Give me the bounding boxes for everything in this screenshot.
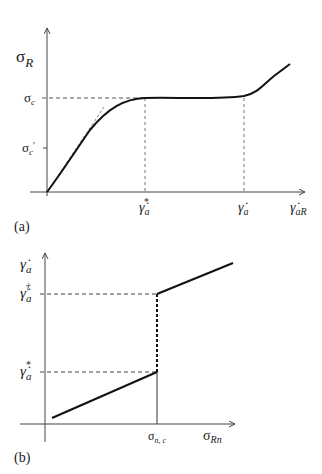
stress-curve <box>47 64 290 192</box>
lower-branch <box>52 372 157 418</box>
sigma-c-prime-label: σc′ <box>22 140 35 157</box>
panel-a-label: (a) <box>14 219 30 235</box>
panel-b: γ̇a γ̇a† γ̇a* σn, c σRn (b) <box>14 253 235 466</box>
gamma-a-label: γ̇a <box>238 200 249 217</box>
gamma-star-label: γ̇a* <box>139 196 150 217</box>
sigma-c-label: σc <box>24 90 35 107</box>
panel-b-y-axis-label: γ̇a <box>20 256 32 275</box>
panel-a-x-axis-label: γ̇aR <box>290 200 307 217</box>
diagram-canvas: σR σc σc′ γ̇a* γ̇a γ̇aR (a) γ̇a γ̇a† γ̇a… <box>0 0 322 474</box>
panel-a: σR σc σc′ γ̇a* γ̇a γ̇aR (a) <box>14 28 307 235</box>
sigma-nc-label: σn, c <box>148 429 166 445</box>
gamma-star-label-b: γ̇a* <box>20 359 32 382</box>
panel-a-y-axis-label: σR <box>16 47 33 70</box>
panel-b-label: (b) <box>14 450 31 466</box>
upper-branch <box>157 263 233 294</box>
panel-b-x-axis-label: σRn <box>203 428 222 445</box>
gamma-dagger-label: γ̇a† <box>20 281 32 304</box>
